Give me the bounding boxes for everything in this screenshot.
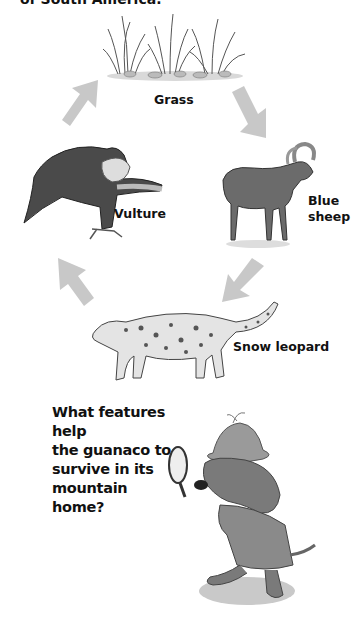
arrow-vulture-to-grass-icon xyxy=(60,76,102,128)
detective-dog-illustration xyxy=(165,405,320,610)
arrow-grass-to-blue-sheep-icon xyxy=(228,84,272,140)
blue-sheep-illustration xyxy=(213,140,323,250)
intro-text-fragment: of South America. xyxy=(20,0,161,7)
arrow-snow-leopard-to-vulture-icon xyxy=(54,256,96,308)
node-label-vulture: Vulture xyxy=(114,206,166,222)
arrow-blue-sheep-to-snow-leopard-icon xyxy=(220,256,266,304)
vulture-illustration xyxy=(22,137,167,245)
node-label-grass: Grass xyxy=(154,92,194,108)
blue-sheep-label-line2: sheep xyxy=(308,209,350,225)
blue-sheep-label-line1: Blue xyxy=(308,193,350,209)
grass-illustration xyxy=(100,14,250,82)
node-label-snow-leopard: Snow leopard xyxy=(233,339,329,355)
node-label-blue-sheep: Blue sheep xyxy=(308,193,350,225)
